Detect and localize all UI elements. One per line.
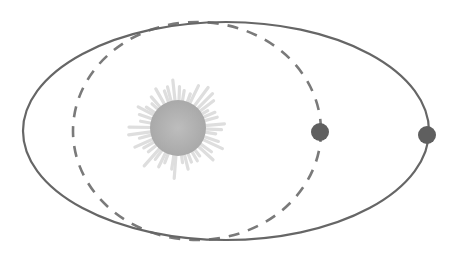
sun-icon bbox=[150, 100, 206, 156]
outer-orbit-solid bbox=[23, 22, 429, 240]
planet-inner-icon bbox=[311, 123, 329, 141]
orbit-diagram-canvas bbox=[0, 0, 458, 256]
orbit-diagram: Elliptical orbit transfer around a star … bbox=[0, 0, 458, 256]
planet-outer-icon bbox=[418, 126, 436, 144]
